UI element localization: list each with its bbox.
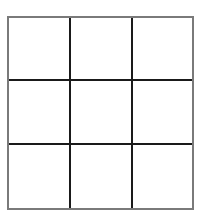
grid-cell-r2-c1[interactable] [9,81,71,145]
grid-cell-r2-c2[interactable] [71,81,133,145]
grid-cell-r1-c3[interactable] [133,18,192,81]
grid-board [7,16,194,210]
grid-cell-r3-c2[interactable] [71,145,133,208]
grid-cell-r1-c1[interactable] [9,18,71,81]
grid-cell-r3-c1[interactable] [9,145,71,208]
grid-cell-r2-c3[interactable] [133,81,192,145]
grid-cell-r1-c2[interactable] [71,18,133,81]
grid-cell-r3-c3[interactable] [133,145,192,208]
